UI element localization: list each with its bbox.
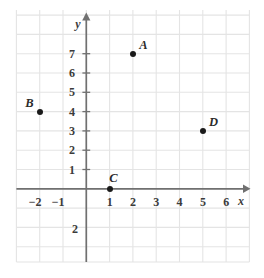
x-axis-label: x [238,195,244,207]
y-tick-label-7: 7 [69,48,75,60]
x-tick-label-negative-2: −2 [29,196,41,208]
x-tick-label-4: 4 [177,196,183,208]
data-point-label-a: A [139,38,147,51]
x-tick-label-2: 2 [130,196,136,208]
y-tick-label-2: 2 [69,144,75,156]
x-tick-label-6: 6 [223,196,229,208]
y-tick-label-6: 6 [69,67,75,79]
y-tick-label-1: 1 [69,164,75,176]
y-tick-label-3: 3 [69,125,75,137]
data-point-label-c: C [109,171,117,184]
data-point-label-b: B [25,96,33,109]
data-point-b [37,109,43,115]
y-axis-label: y [75,18,80,30]
y-tick-label-5: 5 [69,86,75,98]
data-point-a [130,51,136,57]
x-tick-label-negative-1: −1 [52,196,64,208]
data-point-d [200,128,206,134]
x-tick-label-5: 5 [200,196,206,208]
x-tick-label-3: 3 [153,196,159,208]
data-point-c [107,186,113,192]
labels-overlay: y x 7 6 5 4 3 2 1 2 −2 −1 1 2 3 4 5 6 A … [0,0,264,278]
x-tick-label-1: 1 [107,196,113,208]
y-tick-label-4: 4 [69,106,75,118]
data-point-label-d: D [209,115,218,128]
y-tick-label-negative-2: 2 [72,223,78,235]
